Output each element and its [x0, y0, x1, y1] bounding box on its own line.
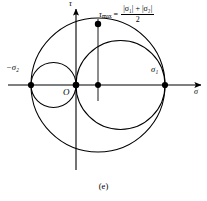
- point-origin: [73, 82, 80, 89]
- point-sigma1: [162, 82, 168, 88]
- point-minus-sigma2: [28, 82, 34, 88]
- origin-label: O: [63, 88, 70, 97]
- mohr-circle-diagram: [0, 0, 207, 201]
- fraction: |σ₁| + |σ₂| 2: [121, 5, 154, 24]
- point-outer-center: [95, 82, 101, 88]
- sigma1-label: σ₁: [151, 65, 158, 74]
- fraction-numerator: |σ₁| + |σ₂|: [121, 5, 154, 14]
- mohr-circle-figure: τ σ O −σ₂ σ₁ τmax = |σ₁| + |σ₂| 2 (e): [0, 0, 207, 201]
- max-subscript: max: [102, 13, 112, 19]
- tau-max-symbol: τmax: [99, 10, 112, 19]
- minus-sigma2-label: −σ₂: [6, 63, 19, 72]
- figure-caption: (e): [0, 181, 207, 191]
- sigma-axis-label: σ: [194, 88, 198, 96]
- equals-sign: =: [114, 10, 119, 19]
- fraction-denominator: 2: [136, 15, 140, 24]
- tau-axis-label: τ: [69, 0, 72, 8]
- tau-max-equation: τmax = |σ₁| + |σ₂| 2: [99, 5, 154, 24]
